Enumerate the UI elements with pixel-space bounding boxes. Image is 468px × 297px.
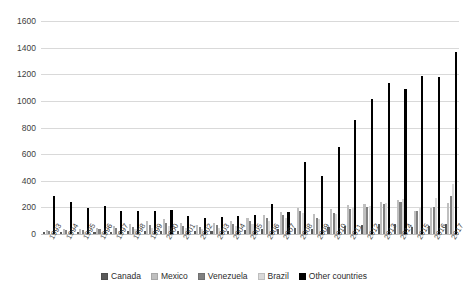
legend-item[interactable]: Venezuela <box>198 272 248 281</box>
bar <box>438 77 440 234</box>
legend-label: Canada <box>111 272 141 281</box>
y-tick-label: 200 <box>22 203 36 212</box>
legend-swatch-icon <box>299 273 306 280</box>
bar-group <box>442 21 459 234</box>
bar-group <box>342 21 359 234</box>
legend-item[interactable]: Mexico <box>151 272 188 281</box>
y-axis: 02004006008001000120014001600 <box>0 14 41 241</box>
legend-item[interactable]: Brazil <box>258 272 289 281</box>
bar-group <box>125 21 142 234</box>
legend-label: Brazil <box>268 272 289 281</box>
legend-label: Mexico <box>161 272 188 281</box>
y-tick-label: 600 <box>22 150 36 159</box>
bar-group <box>158 21 175 234</box>
bar <box>354 120 356 234</box>
legend-item[interactable]: Canada <box>101 272 141 281</box>
bar-group <box>141 21 158 234</box>
y-tick-label: 1200 <box>17 70 36 79</box>
plot-area <box>41 21 459 234</box>
bar-group <box>108 21 125 234</box>
y-tick-label: 400 <box>22 177 36 186</box>
bar-group <box>58 21 75 234</box>
legend-label: Venezuela <box>208 272 248 281</box>
bar-group <box>392 21 409 234</box>
bar-group <box>309 21 326 234</box>
bar-group <box>242 21 259 234</box>
bar <box>404 89 406 234</box>
legend-item[interactable]: Other countries <box>299 272 367 281</box>
bar-group <box>74 21 91 234</box>
bar-group <box>91 21 108 234</box>
bar <box>371 99 373 234</box>
bar-group <box>292 21 309 234</box>
bar <box>421 76 423 234</box>
bar-group <box>275 21 292 234</box>
bar-group <box>426 21 443 234</box>
bar-group <box>191 21 208 234</box>
bar-group <box>359 21 376 234</box>
x-axis: 1993199419951996199719981999200020012002… <box>41 234 459 270</box>
bar-group <box>325 21 342 234</box>
bar-group <box>409 21 426 234</box>
bar-group <box>208 21 225 234</box>
legend-swatch-icon <box>258 273 265 280</box>
y-tick-label: 0 <box>31 230 36 239</box>
bar-group <box>258 21 275 234</box>
bar-group <box>375 21 392 234</box>
legend-label: Other countries <box>309 272 367 281</box>
bar-group <box>225 21 242 234</box>
bar-group <box>41 21 58 234</box>
bars-layer <box>41 21 459 234</box>
y-tick-label: 1000 <box>17 97 36 106</box>
bar-chart: 02004006008001000120014001600 1993199419… <box>0 0 468 297</box>
y-tick-label: 800 <box>22 123 36 132</box>
bar-group <box>175 21 192 234</box>
legend-swatch-icon <box>198 273 205 280</box>
chart-legend: CanadaMexicoVenezuelaBrazilOther countri… <box>0 272 468 281</box>
bar <box>455 52 457 234</box>
y-tick-label: 1600 <box>17 17 36 26</box>
legend-swatch-icon <box>151 273 158 280</box>
y-tick-label: 1400 <box>17 43 36 52</box>
legend-swatch-icon <box>101 273 108 280</box>
bar <box>338 147 340 234</box>
bar <box>388 83 390 234</box>
